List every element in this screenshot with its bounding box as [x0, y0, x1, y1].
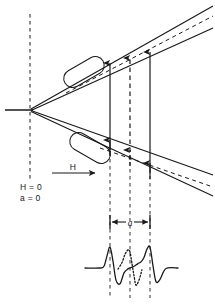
upper-beam-center-dashed	[66, 16, 213, 93]
field-arrow-label: H	[70, 162, 76, 172]
spacing-dimension: a	[110, 215, 150, 229]
upper-beam-edge-bottom	[31, 28, 213, 111]
lower-beam-center-dashed	[100, 148, 213, 187]
upper-beam	[31, 6, 213, 111]
zero-condition-labels: H = 0 a = 0	[20, 182, 42, 203]
transfer-arrows	[110, 52, 150, 173]
upper-sample-box-outline	[60, 53, 107, 91]
lower-beam	[31, 111, 213, 197]
spacing-zero-label: a = 0	[20, 193, 41, 203]
field-zero-label: H = 0	[20, 182, 42, 192]
lower-beam-edge-top	[31, 111, 213, 176]
field-arrow-group: H	[52, 162, 95, 173]
figure-container: H H = 0 a = 0 a	[0, 0, 215, 304]
spacing-label: a	[128, 218, 133, 228]
lower-beam-edge-bottom	[31, 112, 213, 197]
upper-beam-edge-top	[31, 6, 213, 109]
beam-splitting-diagram: H H = 0 a = 0 a	[0, 0, 215, 304]
derivative-spectrum	[85, 246, 178, 285]
spectrum-trace-outer-lines-solid	[85, 246, 178, 284]
upper-sample-box	[60, 53, 107, 91]
